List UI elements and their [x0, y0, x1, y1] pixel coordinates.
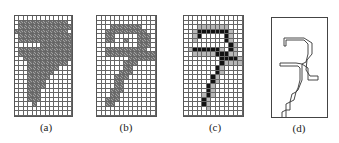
bitmap-grid-a — [14, 15, 73, 117]
pixel-cell — [68, 111, 72, 116]
contour-box-d — [271, 17, 328, 118]
pixel-cell — [238, 111, 243, 116]
caption-d: (d) — [279, 122, 319, 134]
pixel-cell — [151, 111, 156, 116]
contour-outline-icon — [272, 18, 327, 117]
bitmap-grid-c — [183, 15, 244, 117]
caption-c: (c) — [195, 121, 235, 133]
caption-b: (b) — [106, 121, 146, 133]
bitmap-grid-b — [96, 15, 157, 117]
caption-a: (a) — [26, 121, 66, 133]
